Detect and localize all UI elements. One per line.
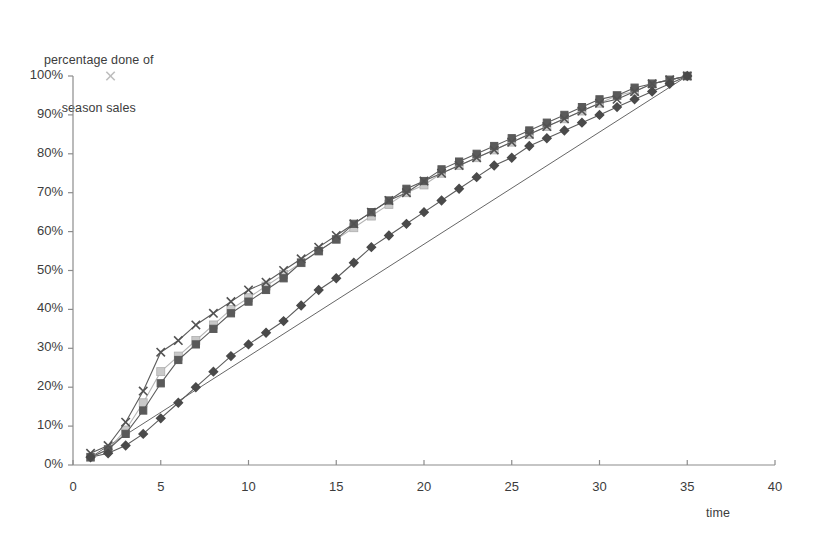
diamond-marker (121, 441, 129, 449)
cross-marker (174, 336, 182, 344)
cross-marker (121, 418, 129, 426)
square-marker (262, 286, 269, 293)
cross-marker (227, 297, 235, 305)
diamond-marker (385, 231, 393, 239)
chart-root: percentage done of season sales time 0%1… (0, 0, 823, 548)
diamond-marker (648, 87, 656, 95)
diamond-marker (472, 173, 480, 181)
cross-marker (157, 348, 165, 356)
square-marker (596, 96, 603, 103)
square-marker (157, 380, 164, 387)
plot-area (0, 0, 823, 548)
square-marker (192, 341, 199, 348)
cross-marker (106, 72, 114, 80)
square-marker (227, 310, 234, 317)
square-marker (140, 407, 147, 414)
cross-marker (209, 309, 217, 317)
diamond-marker (402, 220, 410, 228)
square-marker (175, 356, 182, 363)
diamond-marker (437, 196, 445, 204)
square-marker (210, 325, 217, 332)
diamond-marker (508, 153, 516, 161)
diamond-marker (490, 161, 498, 169)
diamond-marker (578, 118, 586, 126)
light-square-marker (157, 368, 165, 376)
series-line (91, 76, 688, 453)
cross-marker (244, 286, 252, 294)
cross-marker (139, 387, 147, 395)
diamond-marker (630, 95, 638, 103)
diamond-marker (262, 329, 270, 337)
cross-marker (192, 321, 200, 329)
diamond-marker (525, 142, 533, 150)
diamond-marker (560, 126, 568, 134)
diamond-marker (543, 134, 551, 142)
diamond-marker (455, 185, 463, 193)
diamond-marker (244, 340, 252, 348)
square-marker (245, 298, 252, 305)
square-marker (280, 275, 287, 282)
diamond-marker (595, 111, 603, 119)
diamond-marker (613, 103, 621, 111)
diamond-marker (420, 208, 428, 216)
stray-marker-group (106, 72, 114, 80)
square-marker (122, 430, 129, 437)
